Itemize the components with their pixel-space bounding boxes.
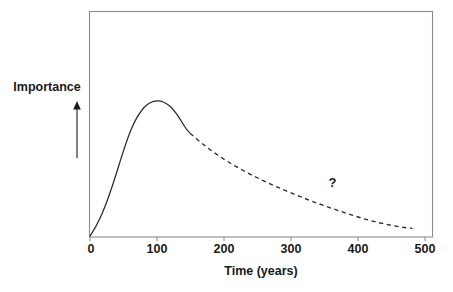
y-axis-title: Importance — [13, 80, 80, 94]
x-tick-label-100: 100 — [147, 242, 168, 256]
chart-figure: 0 100 200 300 400 500 Time (years) Impor… — [0, 0, 453, 292]
x-axis-title: Time (years) — [224, 264, 297, 278]
uncertainty-question-mark-annotation: ? — [329, 175, 337, 190]
x-tick-label-200: 200 — [214, 242, 235, 256]
x-tick-label-500: 500 — [415, 242, 436, 256]
importance-over-time-chart: 0 100 200 300 400 500 Time (years) Impor… — [0, 0, 453, 292]
x-tick-label-0: 0 — [88, 242, 95, 256]
x-tick-label-300: 300 — [281, 242, 302, 256]
x-tick-label-400: 400 — [348, 242, 369, 256]
